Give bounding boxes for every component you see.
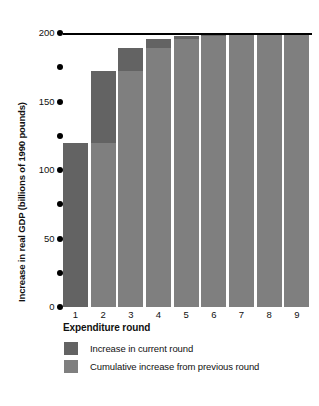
x-axis-tick-label: 1 — [63, 308, 88, 322]
bar — [63, 143, 88, 307]
chart-figure: Increase in real GDP (billions of 1990 p… — [0, 0, 319, 406]
bar-segment-cumulative — [146, 48, 171, 307]
legend-label: Cumulative increase from previous round — [90, 361, 259, 372]
x-axis-tick-label: 4 — [146, 308, 171, 322]
x-axis-tick-label: 8 — [257, 308, 282, 322]
x-axis-tick-label: 3 — [118, 308, 143, 322]
x-axis-tick-label: 6 — [201, 308, 226, 322]
bar — [91, 71, 116, 307]
bar — [229, 33, 254, 307]
x-axis-title: Expenditure round — [63, 322, 150, 333]
x-axis-tick-label: 5 — [174, 308, 199, 322]
bar — [146, 39, 171, 307]
bar-segment-cumulative — [118, 71, 143, 307]
bar-segment-cumulative — [257, 33, 282, 307]
bar-segment-current-round — [91, 71, 116, 142]
bar — [201, 34, 226, 307]
bar — [284, 33, 309, 307]
x-axis-tick-label: 9 — [284, 308, 309, 322]
reference-line-200 — [63, 33, 312, 35]
y-axis-tick-label: 100 — [39, 165, 57, 175]
bar-segment-cumulative — [229, 34, 254, 307]
bar — [118, 48, 143, 307]
legend-swatch — [64, 360, 78, 373]
bar-segment-cumulative — [174, 39, 199, 307]
bar-segment-current-round — [118, 48, 143, 71]
bar-segment-current-round — [146, 39, 171, 48]
legend-label: Increase in current round — [90, 343, 193, 354]
plot-area — [63, 33, 312, 307]
legend-item: Increase in current round — [64, 339, 314, 357]
bar — [257, 33, 282, 307]
y-axis-tick-label: 150 — [39, 97, 57, 107]
chart-legend: Increase in current roundCumulative incr… — [64, 339, 314, 375]
bar — [174, 36, 199, 307]
y-axis-tick-label: 50 — [44, 234, 57, 244]
bar-segment-cumulative — [284, 33, 309, 307]
bar-segment-current-round — [174, 36, 199, 39]
bar-segment-cumulative — [91, 143, 116, 307]
bar-segment-current-round — [63, 143, 88, 307]
x-axis-tick-label: 7 — [229, 308, 254, 322]
x-axis-tick-label: 2 — [91, 308, 116, 322]
y-axis-ticks: 050100150200 — [0, 0, 63, 406]
legend-item: Cumulative increase from previous round — [64, 357, 314, 375]
bar-segment-cumulative — [201, 36, 226, 307]
legend-swatch — [64, 342, 78, 355]
y-axis-tick-label: 0 — [49, 302, 57, 312]
y-axis-tick-label: 200 — [39, 28, 57, 38]
